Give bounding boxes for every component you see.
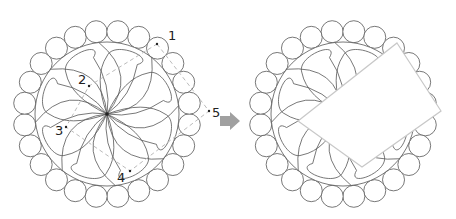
scallop-circle	[300, 26, 322, 48]
point-marker	[208, 110, 210, 112]
scallop-circle	[321, 21, 343, 43]
scallop-circle	[14, 92, 36, 114]
scallop-circle	[128, 180, 150, 202]
diagram-canvas: 12345	[0, 0, 456, 219]
scallop-circle	[107, 185, 129, 207]
point-label: 1	[168, 28, 176, 43]
scallop-circle	[19, 71, 41, 93]
scallop-circle	[14, 114, 36, 136]
point-label: 2	[78, 72, 86, 87]
point-marker	[88, 85, 90, 87]
scallop-circle	[107, 21, 129, 43]
left-quilt-design: 12345	[14, 21, 221, 208]
point-marker	[65, 126, 67, 128]
arrow-icon	[220, 112, 240, 130]
scallop-circle	[255, 135, 277, 157]
point-marker	[129, 170, 131, 172]
scallop-circle	[321, 185, 343, 207]
scallop-circle	[85, 21, 107, 43]
scallop-circle	[300, 180, 322, 202]
scallop-circle	[173, 135, 195, 157]
point-label: 3	[55, 123, 63, 138]
point-label: 5	[212, 105, 220, 120]
point-label: 4	[117, 170, 125, 185]
point-marker	[156, 43, 158, 45]
scallop-circle	[64, 26, 86, 48]
scallop-circle	[250, 114, 272, 136]
scallop-circle	[64, 180, 86, 202]
scallop-circle	[85, 185, 107, 207]
scallop-circle	[173, 71, 195, 93]
scallop-circle	[255, 71, 277, 93]
scallop-circle	[250, 92, 272, 114]
scallop-circle	[364, 180, 386, 202]
scallop-circle	[343, 185, 365, 207]
scallop-circle	[409, 135, 431, 157]
scallop-circle	[343, 21, 365, 43]
scallop-circle	[364, 26, 386, 48]
scallop-circle	[128, 26, 150, 48]
right-quilt-design	[250, 21, 441, 208]
center-point	[105, 112, 109, 116]
scallop-circle	[19, 135, 41, 157]
scallop-circle	[178, 114, 200, 136]
